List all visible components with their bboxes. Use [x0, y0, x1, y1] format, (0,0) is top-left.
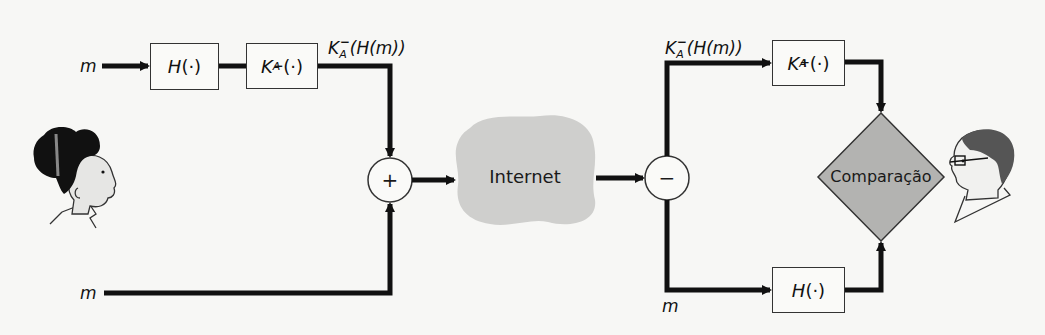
input-m-bottom: m	[80, 285, 97, 302]
hash-box-sender-arg: (·)	[181, 56, 201, 77]
verify-box-sup: +	[800, 56, 810, 70]
signature-label-sender: KA−(H(m))	[328, 36, 406, 60]
sig-sup: −	[340, 35, 350, 49]
rsig-sub: A	[676, 48, 684, 61]
sign-box-main: K	[261, 56, 273, 77]
arrow-hash-to-compare	[845, 243, 881, 290]
hash-box-receiver-main: H	[792, 280, 806, 301]
input-m-top: m	[80, 58, 97, 75]
hash-box-sender: H(·)	[150, 43, 219, 90]
rsig-arg: (H(m))	[687, 38, 743, 58]
receiver-m-label: m	[662, 298, 679, 315]
signature-label-receiver: KA−(H(m))	[665, 36, 743, 60]
digital-signature-diagram: m m H(·) KA−(·) KA−(H(m)) + Internet − K…	[0, 0, 1045, 335]
verify-box: KA+(·)	[772, 40, 845, 86]
arrow-splitter-to-verify	[667, 63, 770, 156]
rsig-sup: −	[677, 35, 687, 49]
hash-box-receiver-arg: (·)	[805, 280, 825, 301]
compare-label: Comparação	[816, 167, 946, 186]
arrow-verify-to-compare	[845, 62, 881, 111]
verify-box-main: K	[787, 53, 799, 74]
arrow-sign-to-combiner	[318, 66, 390, 156]
arrow-splitter-to-hash	[667, 200, 770, 290]
bob-figure	[950, 129, 1014, 222]
rsig-main: K	[665, 38, 676, 58]
splitter-symbol: −	[655, 166, 679, 190]
alice-figure	[33, 127, 115, 228]
arrow-m-to-combiner	[104, 204, 390, 293]
hash-box-sender-main: H	[168, 56, 182, 77]
sig-sub: A	[339, 48, 347, 61]
hash-box-receiver: H(·)	[772, 267, 845, 313]
sig-main: K	[328, 38, 339, 58]
combiner-symbol: +	[378, 168, 402, 192]
sign-box-sup: −	[273, 59, 283, 73]
verify-box-arg: (·)	[810, 53, 830, 74]
sign-box-arg: (·)	[283, 56, 303, 77]
sig-arg: (H(m))	[350, 38, 406, 58]
sign-box: KA−(·)	[246, 43, 318, 89]
internet-label: Internet	[470, 166, 580, 187]
